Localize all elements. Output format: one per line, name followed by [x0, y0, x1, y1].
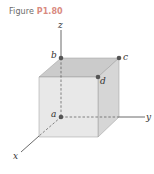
x-axis — [21, 136, 39, 152]
point-a — [59, 115, 64, 120]
point-b — [59, 56, 64, 61]
point-b-label: b — [51, 50, 57, 60]
cube-diagram: z y x a b c d — [0, 0, 154, 174]
y-axis-label: y — [145, 112, 152, 122]
point-c-label: c — [123, 52, 128, 62]
cube-front-face — [39, 77, 98, 137]
point-c — [117, 56, 122, 61]
point-a-label: a — [51, 109, 56, 119]
point-d-label: d — [100, 76, 106, 86]
z-axis-label: z — [57, 20, 63, 30]
x-axis-label: x — [13, 151, 18, 161]
